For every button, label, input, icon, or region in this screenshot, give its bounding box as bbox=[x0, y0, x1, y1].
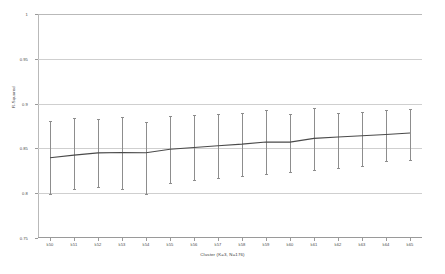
x-tick-label: k55 bbox=[157, 242, 183, 248]
x-tick-label: k65 bbox=[397, 242, 423, 248]
x-tick-mark bbox=[146, 238, 147, 241]
x-tick-mark bbox=[290, 238, 291, 241]
x-tick-mark bbox=[50, 238, 51, 241]
x-tick-mark bbox=[242, 238, 243, 241]
x-tick-label: k64 bbox=[373, 242, 399, 248]
x-tick-mark bbox=[338, 238, 339, 241]
y-tick-label: 0.8 bbox=[0, 191, 28, 196]
series-line bbox=[38, 14, 422, 238]
x-tick-mark bbox=[314, 238, 315, 241]
x-tick-mark bbox=[362, 238, 363, 241]
x-tick-mark bbox=[386, 238, 387, 241]
x-tick-label: k57 bbox=[205, 242, 231, 248]
x-axis-title: Cluster (K=3, N=176) bbox=[0, 252, 445, 257]
x-tick-mark bbox=[266, 238, 267, 241]
x-tick-label: k61 bbox=[301, 242, 327, 248]
plot-area bbox=[38, 14, 422, 238]
y-tick-mark bbox=[35, 238, 38, 239]
x-tick-mark bbox=[410, 238, 411, 241]
x-tick-label: k53 bbox=[109, 242, 135, 248]
x-tick-mark bbox=[74, 238, 75, 241]
x-tick-mark bbox=[194, 238, 195, 241]
y-tick-label: 0.95 bbox=[0, 56, 28, 61]
x-tick-mark bbox=[218, 238, 219, 241]
x-tick-label: k50 bbox=[37, 242, 63, 248]
x-tick-mark bbox=[122, 238, 123, 241]
x-tick-label: k63 bbox=[349, 242, 375, 248]
x-axis-line bbox=[38, 237, 422, 238]
x-tick-label: k54 bbox=[133, 242, 159, 248]
x-tick-label: k59 bbox=[253, 242, 279, 248]
x-tick-mark bbox=[170, 238, 171, 241]
x-tick-label: k62 bbox=[325, 242, 351, 248]
y-tick-label: 0.75 bbox=[0, 236, 28, 241]
y-tick-label: 1 bbox=[0, 12, 28, 17]
x-tick-label: k60 bbox=[277, 242, 303, 248]
series-polyline bbox=[50, 133, 410, 158]
x-tick-label: k58 bbox=[229, 242, 255, 248]
x-tick-mark bbox=[98, 238, 99, 241]
y-tick-label: 0.85 bbox=[0, 146, 28, 151]
y-tick-label: 0.9 bbox=[0, 101, 28, 106]
x-tick-label: k52 bbox=[85, 242, 111, 248]
chart-container: R-Squared 0.750.80.850.90.951 k50k51k52k… bbox=[0, 0, 445, 274]
x-tick-label: k51 bbox=[61, 242, 87, 248]
x-tick-label: k56 bbox=[181, 242, 207, 248]
